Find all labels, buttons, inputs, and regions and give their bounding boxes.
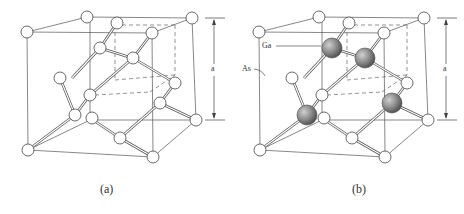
as-atom-label: As: [242, 64, 251, 73]
panel-b-zinc-blende-lattice: Ga As a (b): [232, 0, 464, 214]
diamond-lattice-diagram: [0, 0, 232, 214]
panel-a-diamond-lattice: a (a): [0, 0, 232, 214]
zinc-blende-lattice-diagram: [232, 0, 464, 214]
caption-a: (a): [100, 182, 113, 197]
ga-atom-label: Ga: [262, 41, 271, 50]
lattice-constant-label-b: a: [443, 64, 447, 73]
caption-b: (b): [352, 182, 366, 197]
lattice-constant-label-a: a: [211, 64, 215, 73]
